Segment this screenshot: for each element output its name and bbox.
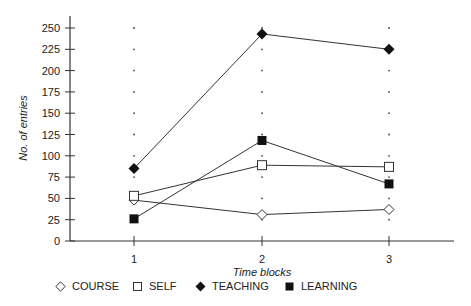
filled-square-marker — [258, 136, 267, 145]
grid-dot — [388, 70, 390, 72]
legend-item-course: COURSE — [55, 280, 119, 292]
line-chart: 0255075100125150175200225250 123 Time bl… — [0, 0, 471, 306]
x-axis-ticks: 123 — [131, 236, 392, 265]
x-axis-title: Time blocks — [233, 266, 292, 278]
legend: COURSE SELF TEACHING LEARNING — [0, 280, 471, 298]
open-square-marker — [258, 161, 267, 170]
grid-dot — [133, 155, 135, 157]
grid-dot — [388, 219, 390, 221]
open-diamond-marker — [384, 204, 394, 214]
legend-item-self: SELF — [132, 280, 177, 292]
grid-dot — [133, 27, 135, 29]
y-tick-label: 175 — [42, 86, 60, 98]
x-tick-label: 3 — [386, 253, 392, 265]
grid-dot — [388, 155, 390, 157]
open-square-icon — [132, 281, 143, 292]
grid-dot — [388, 134, 390, 136]
y-tick-label: 0 — [54, 235, 60, 247]
grid-dot — [261, 176, 263, 178]
grid-dot — [388, 91, 390, 93]
legend-item-learning: LEARNING — [284, 280, 357, 292]
open-diamond-marker — [257, 210, 267, 220]
grid-dot — [388, 198, 390, 200]
dotted-guides — [133, 27, 390, 221]
y-tick-label: 250 — [42, 22, 60, 34]
grid-dot — [261, 112, 263, 114]
y-tick-label: 225 — [42, 43, 60, 55]
grid-dot — [261, 155, 263, 157]
grid-dot — [261, 70, 263, 72]
y-tick-label: 150 — [42, 107, 60, 119]
series-line — [134, 140, 389, 218]
grid-dot — [261, 91, 263, 93]
y-tick-label: 50 — [48, 192, 60, 204]
series-lines — [129, 28, 395, 223]
y-tick-label: 200 — [42, 65, 60, 77]
legend-label: LEARNING — [301, 280, 357, 292]
x-tick-label: 2 — [259, 253, 265, 265]
grid-dot — [388, 27, 390, 29]
filled-square-marker — [385, 179, 394, 188]
open-square-marker — [385, 162, 394, 171]
grid-dot — [133, 91, 135, 93]
grid-dot — [261, 198, 263, 200]
series-teaching — [129, 28, 395, 174]
y-tick-label: 75 — [48, 171, 60, 183]
legend-item-teaching: TEACHING — [195, 280, 269, 292]
filled-square-marker — [130, 214, 139, 223]
grid-dot — [133, 70, 135, 72]
legend-label: TEACHING — [212, 280, 269, 292]
legend-label: SELF — [149, 280, 177, 292]
y-tick-label: 100 — [42, 150, 60, 162]
grid-dot — [133, 134, 135, 136]
filled-diamond-icon — [195, 281, 206, 292]
filled-diamond-marker — [384, 44, 395, 55]
open-square-marker — [130, 191, 139, 200]
grid-dot — [133, 48, 135, 50]
series-line — [134, 34, 389, 169]
filled-square-icon — [284, 281, 295, 292]
grid-dot — [261, 134, 263, 136]
grid-dot — [133, 112, 135, 114]
grid-dot — [388, 112, 390, 114]
grid-dot — [261, 48, 263, 50]
y-axis-title: No. of entries — [17, 95, 29, 161]
y-tick-label: 25 — [48, 214, 60, 226]
x-tick-label: 1 — [131, 253, 137, 265]
grid-dot — [388, 176, 390, 178]
grid-dot — [133, 176, 135, 178]
open-diamond-icon — [55, 281, 66, 292]
series-self — [130, 161, 394, 201]
y-tick-label: 125 — [42, 129, 60, 141]
legend-label: COURSE — [72, 280, 119, 292]
